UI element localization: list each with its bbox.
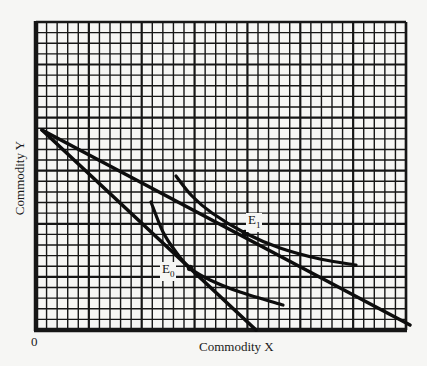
y-axis-label: Commodity Y — [12, 141, 28, 215]
diagram-canvas — [0, 0, 427, 366]
e1-subscript: 1 — [256, 220, 261, 230]
equilibrium-e0-label: E0 — [160, 262, 176, 281]
equilibrium-e1-label: E1 — [246, 213, 262, 232]
e1-letter: E — [248, 212, 256, 227]
equilibrium-point — [187, 265, 193, 271]
e0-letter: E — [162, 261, 170, 276]
origin-label: 0 — [31, 334, 38, 350]
e0-subscript: 0 — [170, 269, 175, 279]
indifference-curve — [176, 176, 356, 265]
x-axis-label: Commodity X — [199, 339, 274, 355]
